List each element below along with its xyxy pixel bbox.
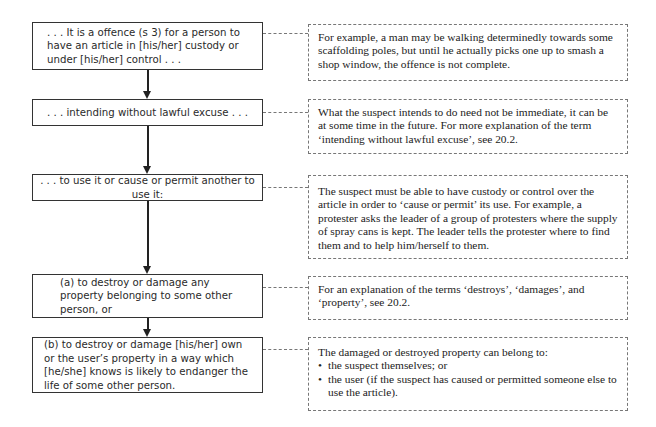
note-text: For example, a man may be walking determ… [318,31,613,70]
note-box-example: For example, a man may be walking determ… [308,24,628,81]
flow-step-option-a: (a) to destroy or damage any property be… [32,274,263,318]
flow-arrow-line [147,126,149,166]
flow-step-intending: . . . intending without lawful excuse . … [32,99,263,126]
connector-line [263,187,308,188]
arrow-down-icon [143,329,151,337]
note-text: For an explanation of the terms ‘destroy… [318,283,584,308]
connector-line [263,349,308,350]
note-box-custody: The suspect must be able to have custody… [308,175,628,259]
flow-step-offence: . . . It is a offence (s 3) for a person… [32,22,263,70]
arrow-down-icon [143,91,151,99]
note-box-intending: What the suspect intends to do need not … [308,99,628,154]
flow-step-text: (b) to destroy or damage [his/her] own o… [44,338,254,392]
note-text: The suspect must be able to have custody… [318,185,618,251]
flow-step-option-b: (b) to destroy or damage [his/her] own o… [32,337,263,393]
connector-line [263,112,308,113]
note-box-ownership: The damaged or destroyed property can be… [308,337,628,411]
arrow-down-icon [143,166,151,174]
flow-step-text: . . . intending without lawful excuse . … [33,106,262,120]
flow-arrow-line [147,318,149,329]
flow-arrow-line [147,70,149,91]
note-bullet-item: the suspect themselves; or [318,359,618,372]
flow-step-text: (a) to destroy or damage any property be… [60,276,252,317]
note-bullet-list: the suspect themselves; or the user (if … [318,359,618,399]
arrow-down-icon [143,266,151,274]
flow-step-text: . . . It is a offence (s 3) for a person… [47,26,252,67]
flow-step-text: . . . to use it or cause or permit anoth… [33,174,262,201]
flow-step-use: . . . to use it or cause or permit anoth… [32,174,263,201]
connector-line [263,33,308,34]
note-box-definitions: For an explanation of the terms ‘destroy… [308,276,628,320]
note-intro: The damaged or destroyed property can be… [318,346,618,359]
connector-line [263,287,308,288]
offence-flowchart: . . . It is a offence (s 3) for a person… [0,0,656,427]
note-bullet-item: the user (if the suspect has caused or p… [318,373,618,400]
note-text: What the suspect intends to do need not … [318,106,608,145]
flow-arrow-line [147,201,149,266]
